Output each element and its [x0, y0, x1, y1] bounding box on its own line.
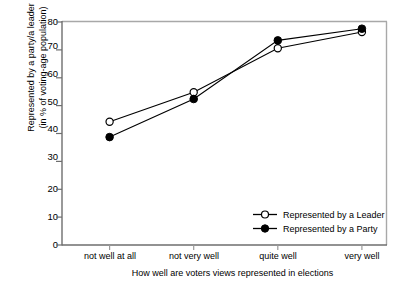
series-party-point-2	[274, 37, 282, 45]
series-leader-point-0	[106, 118, 113, 125]
series-party-point-0	[106, 133, 114, 141]
x-axis-title: How well are voters views represented in…	[60, 268, 405, 278]
series-represented-by-a-party	[106, 25, 366, 141]
legend-label-leader: Represented by a Leader	[283, 210, 385, 220]
series-party-line	[110, 29, 362, 137]
series-represented-by-a-leader	[106, 28, 366, 125]
legend-label-party: Represented by a Party	[283, 224, 378, 234]
series-party-point-3	[358, 25, 366, 33]
plot-canvas	[0, 0, 420, 294]
series-leader-point-2	[274, 45, 281, 52]
legend-marker-leader	[253, 211, 277, 218]
x-axis-ticks	[110, 245, 362, 250]
chart-figure: Represented by a party/a leader (in % of…	[0, 0, 420, 294]
series-party-point-1	[190, 95, 198, 103]
series-leader-line	[110, 32, 362, 122]
y-axis-ticks	[56, 22, 62, 245]
legend-marker-party	[253, 225, 277, 232]
